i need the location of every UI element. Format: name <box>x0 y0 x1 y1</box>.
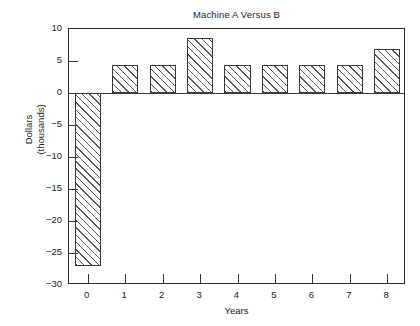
y-tick-label-0: 0 <box>30 86 62 97</box>
x-tick-3 <box>200 274 201 283</box>
y-tick--25 <box>69 253 78 254</box>
bar-year-2 <box>150 65 176 93</box>
x-tick-label-8: 8 <box>371 289 401 300</box>
y-tick-label--5: −5 <box>30 118 62 129</box>
x-axis-title: Years <box>68 305 405 316</box>
x-tick-label-5: 5 <box>259 289 289 300</box>
bar-year-0 <box>75 93 101 266</box>
x-tick-label-2: 2 <box>147 289 177 300</box>
y-tick-label--20: −20 <box>30 214 62 225</box>
plot-area <box>68 28 405 284</box>
bar-year-6 <box>299 65 325 93</box>
y-tick-label-5: 5 <box>30 54 62 65</box>
x-tick-1 <box>125 274 126 283</box>
bar-year-4 <box>224 65 250 93</box>
y-tick-5 <box>69 61 78 62</box>
y-tick--10 <box>69 157 78 158</box>
bar-year-1 <box>112 65 138 93</box>
figure-caption <box>68 319 405 326</box>
y-tick-0 <box>69 93 78 94</box>
bar-year-7 <box>337 65 363 93</box>
y-tick-label--30: −30 <box>30 278 62 289</box>
x-tick-0 <box>88 274 89 283</box>
bar-year-3 <box>187 38 213 93</box>
y-tick--5 <box>69 125 78 126</box>
x-tick-label-4: 4 <box>222 289 252 300</box>
x-tick-5 <box>275 274 276 283</box>
bar-year-8 <box>374 49 400 93</box>
x-tick-8 <box>387 274 388 283</box>
y-tick--15 <box>69 189 78 190</box>
zero-baseline <box>69 93 404 94</box>
y-tick-label--25: −25 <box>30 246 62 257</box>
x-tick-label-6: 6 <box>296 289 326 300</box>
y-tick-label--15: −15 <box>30 182 62 193</box>
chart-figure: Machine A Versus B Dollars (thousands) Y… <box>0 0 420 326</box>
bar-year-5 <box>262 65 288 93</box>
x-tick-label-1: 1 <box>109 289 139 300</box>
x-tick-2 <box>163 274 164 283</box>
x-tick-7 <box>350 274 351 283</box>
x-tick-label-7: 7 <box>334 289 364 300</box>
x-tick-label-3: 3 <box>184 289 214 300</box>
plot-inner <box>69 29 404 283</box>
x-tick-6 <box>312 274 313 283</box>
chart-title: Machine A Versus B <box>68 9 405 20</box>
x-tick-4 <box>238 274 239 283</box>
x-tick-label-0: 0 <box>72 289 102 300</box>
y-tick-label--10: −10 <box>30 150 62 161</box>
y-tick-label-10: 10 <box>30 22 62 33</box>
y-tick--20 <box>69 221 78 222</box>
